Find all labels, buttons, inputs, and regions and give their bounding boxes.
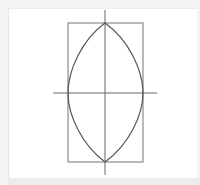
lens-construction-diagram	[0, 0, 200, 185]
